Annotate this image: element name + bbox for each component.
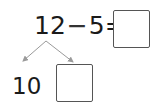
unknown-part-box[interactable]	[56, 64, 93, 102]
known-part: 10	[12, 73, 41, 99]
left-arrow-icon	[23, 41, 46, 61]
right-arrow-icon	[46, 41, 73, 62]
